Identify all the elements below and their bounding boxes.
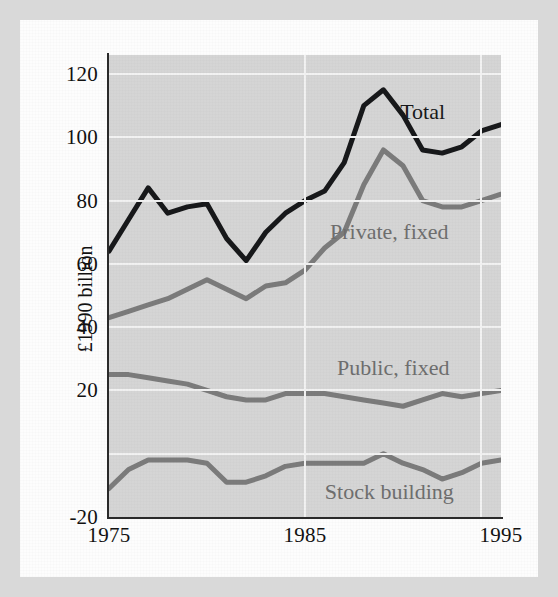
series-label-stock-building: Stock building xyxy=(325,479,454,505)
series-label-public-fixed: Public, fixed xyxy=(337,355,449,381)
gridline-vertical xyxy=(480,55,482,517)
scanned-page-frame: £1990 billion -2020406080100120 19751985… xyxy=(0,0,558,597)
y-tick-label: 100 xyxy=(66,125,107,150)
x-tick-label: 1985 xyxy=(284,523,327,548)
series-label-total: Total xyxy=(400,99,445,125)
x-tick-label: 1975 xyxy=(88,523,131,548)
y-tick-label: 40 xyxy=(77,315,107,340)
chart-figure: £1990 billion -2020406080100120 19751985… xyxy=(20,20,538,577)
y-tick-label: 20 xyxy=(77,378,107,403)
x-axis-line xyxy=(107,517,503,519)
y-tick-label: 60 xyxy=(77,251,107,276)
y-tick-label: 120 xyxy=(66,61,107,86)
gridline-vertical xyxy=(304,55,306,517)
y-tick-label: 80 xyxy=(77,188,107,213)
x-tick-label: 1995 xyxy=(480,523,523,548)
series-label-private-fixed: Private, fixed xyxy=(330,219,449,245)
